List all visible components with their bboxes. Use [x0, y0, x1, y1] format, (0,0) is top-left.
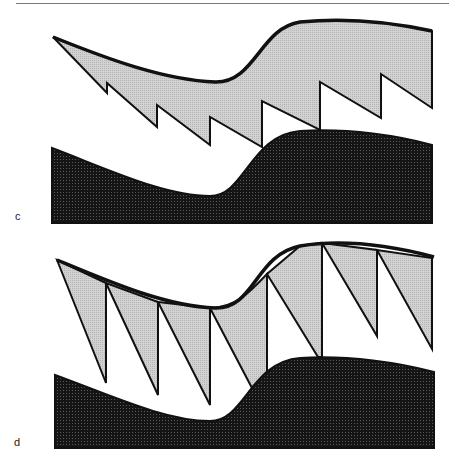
panel-d-wedge-2: [106, 283, 158, 395]
panel-d-wedge-4: [210, 274, 267, 388]
panel-d: [55, 243, 434, 448]
panel-label-d: d: [14, 436, 20, 448]
panel-d-wedge-7: [377, 250, 432, 349]
panel-d-wedge-6: [322, 243, 377, 336]
panel-c: [52, 20, 432, 223]
panel-label-c: c: [15, 210, 21, 222]
panel-c-light-layer: [53, 20, 432, 147]
figure-canvas: [0, 0, 449, 459]
panel-d-wedge-3: [158, 302, 210, 405]
panel-c-dark-base: [52, 130, 432, 223]
